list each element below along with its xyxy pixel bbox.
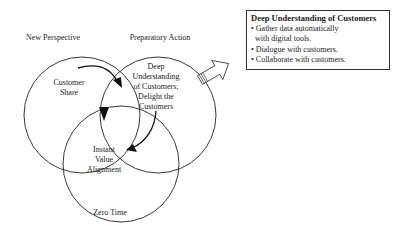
label-zero-time: Zero Time	[80, 208, 140, 218]
text-customer: Customer	[44, 78, 94, 88]
callout-bullet-continuation: with digital tools.	[251, 34, 389, 45]
curved-arrow-icon	[132, 111, 156, 148]
callout-box: Deep Understanding of Customers • Gather…	[246, 10, 390, 70]
label-customer-share: Customer Share	[44, 78, 94, 98]
text-delight-the: Delight the	[118, 92, 194, 102]
hollow-block-arrow-icon	[195, 54, 235, 90]
text-of-customers: of Customers;	[118, 82, 194, 92]
text-understanding: Understanding	[118, 72, 194, 82]
callout-title: Deep Understanding of Customers	[251, 13, 389, 24]
label-preparatory-action: Preparatory Action	[120, 33, 200, 43]
text-customers: Customers	[118, 102, 194, 112]
text-deep: Deep	[118, 62, 194, 72]
text-value: Value	[74, 155, 134, 165]
text-share: Share	[44, 88, 94, 98]
label-instant-value-alignment: Instant Value Alignment	[74, 145, 134, 175]
callout-bullet: • Gather data automatically	[251, 24, 389, 35]
label-deep-understanding: Deep Understanding of Customers; Delight…	[118, 62, 194, 112]
callout-bullet: • Collaborate with customers.	[251, 55, 389, 66]
callout-bullet: • Dialogue with customers.	[251, 45, 389, 56]
text-instant: Instant	[74, 145, 134, 155]
text-alignment: Alignment	[74, 165, 134, 175]
label-new-perspective: New Perspective	[13, 33, 93, 43]
